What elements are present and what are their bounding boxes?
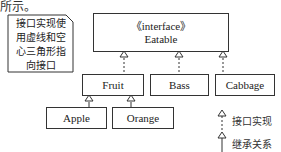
class-cabbage-box: Cabbage (215, 74, 275, 96)
interface-name: Eatable (145, 33, 178, 46)
class-apple-label: Apple (63, 112, 90, 124)
class-fruit-label: Fruit (102, 79, 123, 91)
class-apple-box: Apple (46, 107, 107, 129)
note-line: 心三角形指 (8, 45, 73, 59)
class-bass-label: Bass (169, 79, 190, 91)
class-orange-label: Orange (127, 112, 159, 124)
class-bass-box: Bass (150, 74, 209, 96)
interface-stereotype: 《interface》 (131, 20, 191, 33)
class-cabbage-label: Cabbage (226, 79, 264, 91)
note-line: 用虚线和空 (8, 31, 73, 45)
note-line: 向接口 (8, 59, 73, 73)
interface-eatable-box: 《interface》 Eatable (93, 13, 229, 52)
legend-implementation-label: 接口实现 (232, 113, 272, 128)
class-orange-box: Orange (112, 107, 174, 129)
legend-inheritance-label: 继承关系 (232, 136, 272, 151)
note-comment: 接口实现使 用虚线和空 心三角形指 向接口 (8, 17, 73, 73)
note-line: 接口实现使 (8, 17, 73, 31)
class-fruit-box: Fruit (82, 74, 144, 96)
